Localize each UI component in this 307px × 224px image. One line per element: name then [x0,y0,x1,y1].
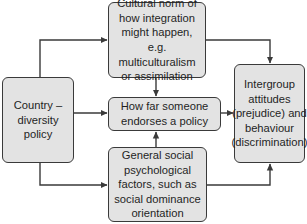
node-cultural-norm: Cultural norm of how integration might h… [108,2,206,78]
arrow-country-to-cultural-norm [40,40,107,77]
node-policy-endorsement: How far someone endorses a policy [108,97,221,131]
arrow-cultural-norm-to-intergroup [206,40,270,63]
node-social-psychological-factors: General social psychological factors, su… [108,147,207,222]
node-label: Cultural norm of how integration might h… [112,0,202,84]
node-intergroup-attitudes: Intergroup attitudes (prejudice) and beh… [234,64,305,163]
node-label: Intergroup attitudes (prejudice) and beh… [232,77,307,150]
node-label: General social psychological factors, su… [112,148,203,221]
node-country-diversity-policy: Country – diversity policy [2,77,74,163]
node-label: Country – diversity policy [6,98,70,142]
arrow-social-factors-to-intergroup [207,164,270,185]
arrow-country-to-social-factors [40,163,107,185]
node-label: How far someone endorses a policy [112,99,217,128]
